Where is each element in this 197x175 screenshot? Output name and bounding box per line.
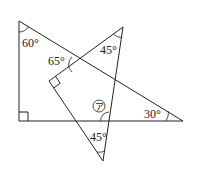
- arc-45-bottom: [98, 151, 105, 152]
- label-45-top: 45°: [100, 43, 117, 57]
- label-65: 65°: [48, 54, 65, 68]
- arc-unknown: [100, 112, 109, 121]
- label-45-bottom: 45°: [90, 130, 107, 144]
- arc-45-top: [114, 34, 122, 38]
- label-30: 30°: [144, 107, 161, 121]
- arc-60: [19, 27, 28, 32]
- right-angle-mark-bottom-left: [19, 112, 28, 121]
- right-angle-mark-triangle2: [54, 76, 61, 88]
- unknown-angle-label: ア: [95, 102, 104, 112]
- label-60: 60°: [22, 36, 39, 50]
- geometry-diagram: 60° 65° 45° 30° 45° ア: [0, 0, 197, 175]
- arc-30: [166, 111, 169, 121]
